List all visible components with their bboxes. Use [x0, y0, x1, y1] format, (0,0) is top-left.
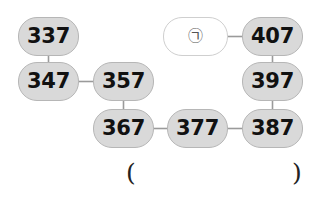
number-node-367[interactable]: 367 — [93, 109, 154, 148]
diagram-canvas: 337㉠407347357397367377387 () — [0, 0, 318, 198]
number-node-337[interactable]: 337 — [18, 17, 79, 56]
number-node-label: 407 — [251, 26, 294, 47]
number-node-label: 367 — [102, 118, 145, 139]
number-node-label: 357 — [102, 71, 145, 92]
number-node-387[interactable]: 387 — [242, 109, 303, 148]
blank-node[interactable]: ㉠ — [163, 17, 228, 56]
number-node-label: 377 — [176, 118, 219, 139]
paren-close: ) — [292, 160, 302, 185]
paren-open: ( — [126, 160, 136, 185]
number-node-label: 337 — [27, 26, 70, 47]
number-node-label: 347 — [27, 71, 70, 92]
number-node-label: 397 — [251, 71, 294, 92]
number-node-347[interactable]: 347 — [18, 62, 79, 101]
number-node-377[interactable]: 377 — [167, 109, 228, 148]
number-node-label: 387 — [251, 118, 294, 139]
number-node-357[interactable]: 357 — [93, 62, 154, 101]
number-node-407[interactable]: 407 — [242, 17, 303, 56]
number-node-397[interactable]: 397 — [242, 62, 303, 101]
blank-node-symbol: ㉠ — [188, 29, 203, 44]
